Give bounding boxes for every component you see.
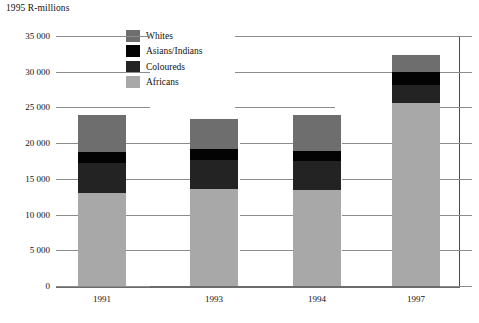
gridline-right-0 xyxy=(440,286,472,287)
gridline-gap-15000-0 xyxy=(128,179,190,180)
legend-item-label: Asians/Indians xyxy=(146,45,202,57)
bar-segment-whites-1993 xyxy=(190,119,238,149)
gridline-gap-5000-0 xyxy=(128,250,190,251)
bar-1994 xyxy=(293,115,341,286)
bar-segment-coloureds-1993 xyxy=(190,160,238,189)
bar-segment-asians-indians-1994 xyxy=(293,151,341,161)
legend-item-label: Africans xyxy=(146,76,179,88)
gridline-gap-15000-2 xyxy=(342,179,392,180)
y-tick-label-25000: 25 000 xyxy=(2,102,50,112)
x-tick-label-1993: 1993 xyxy=(205,294,223,304)
bar-segment-asians-indians-1991 xyxy=(78,152,126,163)
y-tick-label-0: 0 xyxy=(2,281,50,291)
bar-segment-asians-indians-1997 xyxy=(392,72,440,85)
y-tick-label-10000: 10 000 xyxy=(2,210,50,220)
bar-segment-whites-1997 xyxy=(392,55,440,72)
bar-1991 xyxy=(78,115,126,286)
gridline-left-35000 xyxy=(56,36,150,37)
x-tick-label-1994: 1994 xyxy=(308,294,326,304)
gridline-left-25000 xyxy=(56,107,150,108)
bar-segment-asians-indians-1993 xyxy=(190,149,238,160)
gridline-gap-20000-2 xyxy=(342,143,392,144)
gridline-gap-10000-2 xyxy=(342,215,392,216)
legend-item-label: Whites xyxy=(146,30,173,42)
bar-segment-whites-1994 xyxy=(293,115,341,151)
gridline-right-20000 xyxy=(440,143,472,144)
gridline-upper-25000 xyxy=(235,107,335,108)
gridline-gap-10000-0 xyxy=(128,215,190,216)
bar-segment-coloureds-1991 xyxy=(78,163,126,193)
x-tick-label-1991: 1991 xyxy=(93,294,111,304)
bar-segment-coloureds-1997 xyxy=(392,85,440,103)
gridline-upper-35000 xyxy=(235,36,460,37)
legend-swatch-icon xyxy=(126,45,140,57)
gridline-gap-15000-1 xyxy=(240,179,295,180)
gridline-gap-5000-2 xyxy=(342,250,392,251)
bar-segment-africans-1997 xyxy=(392,103,440,286)
gridline-right-10000 xyxy=(440,215,472,216)
y-tick-label-35000: 35 000 xyxy=(2,31,50,41)
gridline-gap-10000-1 xyxy=(240,215,295,216)
gridline-right-15000 xyxy=(440,179,472,180)
gridline-left-0 xyxy=(56,286,150,287)
chart-legend: WhitesAsians/IndiansColouredsAfricans xyxy=(126,29,202,89)
bar-1993 xyxy=(190,119,238,286)
legend-swatch-icon xyxy=(126,61,140,73)
y-tick-label-30000: 30 000 xyxy=(2,67,50,77)
bar-segment-africans-1993 xyxy=(190,189,238,286)
gridline-left-30000 xyxy=(56,72,150,73)
gridline-right-25000 xyxy=(440,107,472,108)
legend-item-label: Coloureds xyxy=(146,61,185,73)
gridline-gap-5000-1 xyxy=(240,250,295,251)
gridline-gap-20000-1 xyxy=(240,143,295,144)
y-tick-label-15000: 15 000 xyxy=(2,174,50,184)
chart-container: 1995 R-millions 05 00010 00015 00020 000… xyxy=(0,0,479,323)
gridline-right-5000 xyxy=(440,250,472,251)
bar-segment-coloureds-1994 xyxy=(293,161,341,190)
gridline-gap-20000-0 xyxy=(128,143,190,144)
y-tick-label-20000: 20 000 xyxy=(2,138,50,148)
bar-segment-africans-1994 xyxy=(293,190,341,286)
bar-segment-africans-1991 xyxy=(78,193,126,286)
bar-1997 xyxy=(392,55,440,286)
y-axis-tick-labels: 05 00010 00015 00020 00025 00030 00035 0… xyxy=(0,0,50,323)
legend-item-asians-indians: Asians/Indians xyxy=(126,45,202,58)
legend-swatch-icon xyxy=(126,76,140,88)
x-tick-label-1997: 1997 xyxy=(407,294,425,304)
y-tick-label-5000: 5 000 xyxy=(2,245,50,255)
bar-segment-whites-1991 xyxy=(78,115,126,152)
legend-item-africans: Africans xyxy=(126,76,202,89)
